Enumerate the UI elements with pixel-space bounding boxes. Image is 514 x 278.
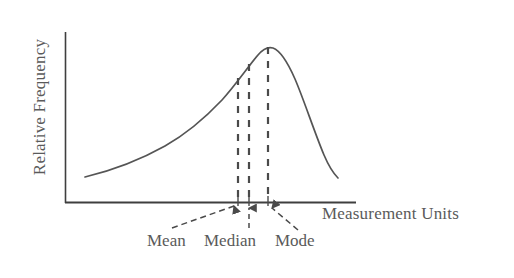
mode-label: Mode (275, 231, 315, 251)
skewed-distribution-diagram (0, 0, 514, 278)
mean-label: Mean (147, 231, 186, 251)
mean-leader-line (172, 206, 234, 228)
distribution-curve (85, 48, 338, 178)
median-label: Median (204, 231, 256, 251)
mode-leader-line (272, 208, 298, 230)
y-axis-label: Relative Frequency (30, 39, 50, 175)
x-axis-label: Measurement Units (322, 204, 459, 224)
figure-canvas: Relative Frequency Measurement Units Mea… (0, 0, 514, 278)
